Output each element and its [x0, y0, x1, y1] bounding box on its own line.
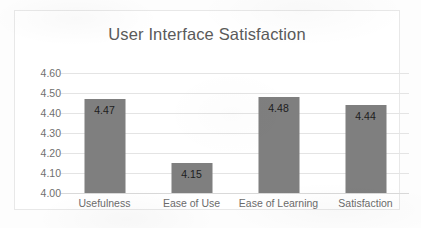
bar-slot: 4.48: [235, 73, 322, 193]
x-category-label: Ease of Use: [148, 197, 235, 209]
bar-satisfaction[interactable]: 4.44: [345, 105, 386, 193]
chart-container: User Interface Satisfaction 4.604.504.40…: [14, 10, 400, 210]
bar-value-label: 4.47: [84, 104, 125, 116]
y-tick-label: 4.40: [41, 107, 61, 119]
x-category-label: Ease of Learning: [235, 197, 322, 209]
y-tick-label: 4.50: [41, 87, 61, 99]
bar-usefulness[interactable]: 4.47: [84, 99, 125, 193]
y-tick-label: 4.20: [41, 147, 61, 159]
y-tick-label: 4.60: [41, 67, 61, 79]
y-tick-label: 4.10: [41, 167, 61, 179]
bar-series: 4.474.154.484.44: [61, 73, 409, 193]
y-tick-label: 4.30: [41, 127, 61, 139]
bar-slot: 4.15: [148, 73, 235, 193]
x-category-label: Satisfaction: [322, 197, 409, 209]
y-axis-tick-labels: 4.604.504.404.304.204.104.00: [29, 73, 61, 193]
bar-slot: 4.47: [61, 73, 148, 193]
bar-slot: 4.44: [322, 73, 409, 193]
bar-ease-of-use[interactable]: 4.15: [171, 163, 212, 193]
bar-value-label: 4.48: [258, 102, 299, 114]
bar-value-label: 4.44: [345, 110, 386, 122]
chart-title: User Interface Satisfaction: [15, 25, 399, 44]
x-category-label: Usefulness: [61, 197, 148, 209]
x-axis-category-labels: UsefulnessEase of UseEase of LearningSat…: [61, 197, 409, 209]
bar-ease-of-learning[interactable]: 4.48: [258, 97, 299, 193]
y-tick-label: 4.00: [41, 187, 61, 199]
gridline-4.00: [61, 193, 409, 194]
bar-value-label: 4.15: [171, 168, 212, 180]
